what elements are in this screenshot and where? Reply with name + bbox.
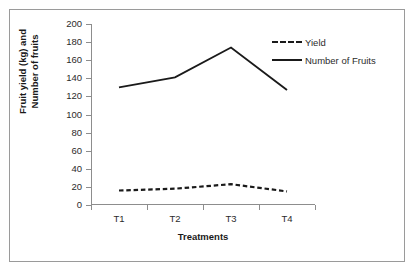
y-tick-label: 180: [42, 37, 82, 46]
x-tick-label-t1: T1: [99, 213, 139, 224]
y-axis-title-line-1: Fruit yield (kg) and: [17, 0, 29, 152]
chart-figure: Fruit yield (kg) and Number of fruits 20…: [0, 0, 414, 271]
series-line-yield: [119, 184, 287, 191]
x-tick-mark: [147, 205, 148, 210]
series-line-number-of-fruits: [119, 48, 287, 91]
legend-item-number-of-fruits[interactable]: Number of Fruits: [272, 51, 402, 69]
x-axis-title: Treatments: [91, 231, 315, 242]
y-tick-label: 20: [42, 182, 82, 191]
x-tick-mark: [203, 205, 204, 210]
y-tick-label: 100: [42, 110, 82, 119]
x-tick-mark: [259, 205, 260, 210]
y-tick-label: 80: [42, 128, 82, 137]
x-tick-label-t3: T3: [211, 213, 251, 224]
legend-swatch-solid-icon: [272, 55, 302, 65]
y-tick-label: 200: [42, 19, 82, 28]
y-tick-label: 40: [42, 164, 82, 173]
chart-legend: Yield Number of Fruits: [272, 33, 402, 69]
y-axis-title: Fruit yield (kg) and Number of fruits: [17, 0, 40, 152]
x-tick-label-t4: T4: [267, 213, 307, 224]
x-tick-label-t2: T2: [155, 213, 195, 224]
y-axis-title-line-2: Number of fruits: [28, 0, 40, 152]
legend-label-yield: Yield: [302, 37, 326, 48]
y-tick-label: 160: [42, 55, 82, 64]
legend-label-number-of-fruits: Number of Fruits: [302, 55, 376, 66]
y-tick-label: 0: [42, 200, 82, 209]
y-tick-label: 60: [42, 146, 82, 155]
x-tick-mark: [91, 205, 92, 210]
legend-swatch-dashed-icon: [272, 37, 302, 47]
y-tick-label: 140: [42, 73, 82, 82]
x-tick-mark: [315, 205, 316, 210]
y-tick-label: 120: [42, 91, 82, 100]
legend-item-yield[interactable]: Yield: [272, 33, 402, 51]
